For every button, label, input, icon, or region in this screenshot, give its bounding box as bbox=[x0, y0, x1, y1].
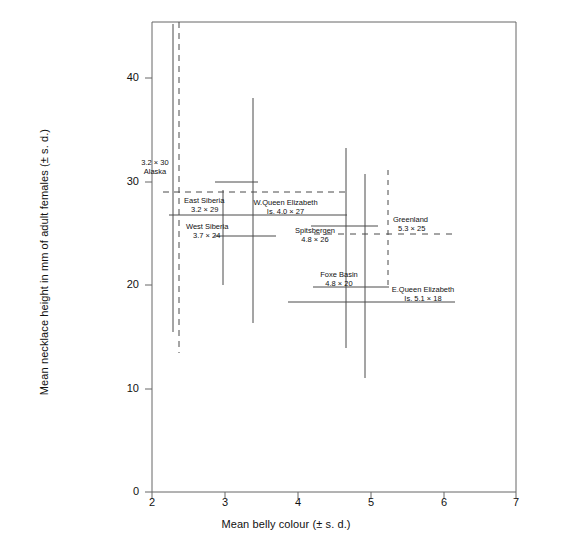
x-axis-ticks bbox=[152, 492, 516, 499]
label-foxe-basin: Foxe Basin 4.8 × 20 bbox=[308, 270, 370, 288]
y-axis-title: Mean necklace height in mm of adult fema… bbox=[38, 32, 50, 492]
label-alaska: 3.2 × 30 Alaska bbox=[125, 158, 185, 176]
label-w-queen-elizabeth: W.Queen Elizabeth Is. 4.0 × 27 bbox=[228, 198, 343, 216]
x-tick-3: 3 bbox=[210, 496, 240, 508]
datapoint-east-siberia bbox=[163, 22, 345, 353]
y-tick-30: 30 bbox=[113, 175, 139, 187]
y-tick-40: 40 bbox=[113, 71, 139, 83]
label-spitsbergen: Spitsbergen 4.8 × 26 bbox=[284, 226, 346, 244]
y-tick-0: 0 bbox=[113, 485, 139, 497]
x-axis-title: Mean belly colour (± s. d.) bbox=[0, 518, 572, 530]
plot-frame bbox=[152, 22, 516, 492]
datapoint-spitsbergen bbox=[311, 148, 378, 348]
datapoint-alaska bbox=[173, 24, 258, 332]
label-greenland: Greenland 5.3 × 25 bbox=[393, 215, 463, 233]
x-tick-5: 5 bbox=[356, 496, 386, 508]
label-e-queen-elizabeth: E.Queen Elizabeth Is. 5.1 × 18 bbox=[368, 285, 478, 303]
x-tick-2: 2 bbox=[137, 496, 167, 508]
x-tick-4: 4 bbox=[283, 496, 313, 508]
x-tick-7: 7 bbox=[501, 496, 531, 508]
y-tick-20: 20 bbox=[113, 278, 139, 290]
y-tick-10: 10 bbox=[113, 382, 139, 394]
chart-canvas: 2 3 4 5 6 7 0 10 20 30 40 Mean belly col… bbox=[0, 0, 572, 546]
x-tick-6: 6 bbox=[429, 496, 459, 508]
scatter-plot-svg bbox=[0, 0, 572, 546]
y-axis-ticks bbox=[145, 78, 152, 492]
label-west-siberia: West Siberia 3.7 × 24 bbox=[186, 222, 266, 240]
